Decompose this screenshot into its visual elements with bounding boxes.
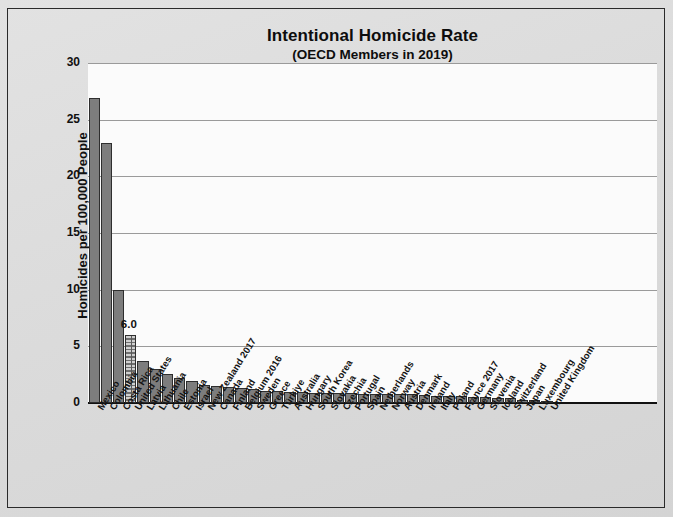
chart-subtitle: (OECD Members in 2019) bbox=[88, 47, 657, 62]
x-axis-ticks: MexicoColombiaCosta RicaUnited StatesLat… bbox=[88, 406, 657, 506]
y-tick-label: 0 bbox=[50, 395, 80, 409]
y-tick-label: 20 bbox=[50, 168, 80, 182]
chart-figure: Intentional Homicide Rate (OECD Members … bbox=[0, 0, 673, 517]
y-tick-label: 10 bbox=[50, 282, 80, 296]
y-tick-label: 25 bbox=[50, 112, 80, 126]
bar-value-label: 6.0 bbox=[121, 318, 137, 330]
y-tick-label: 5 bbox=[50, 338, 80, 352]
bar bbox=[101, 143, 112, 403]
y-tick-label: 15 bbox=[50, 225, 80, 239]
y-axis-ticks: 051015202530 bbox=[48, 0, 80, 517]
bar bbox=[89, 98, 100, 403]
chart-title: Intentional Homicide Rate bbox=[88, 26, 657, 46]
bar-series: 6.0 bbox=[88, 63, 657, 403]
y-tick-label: 30 bbox=[50, 55, 80, 69]
